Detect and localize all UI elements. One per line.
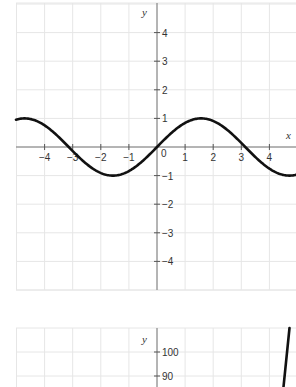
x-tick-label: 3 bbox=[239, 152, 245, 163]
steep-curve bbox=[284, 328, 290, 387]
y-tick-label: −1 bbox=[162, 171, 174, 182]
grid-lines-2 bbox=[16, 328, 296, 387]
y-tick-label: 2 bbox=[162, 85, 168, 96]
y-axis-label-2: y bbox=[141, 333, 147, 345]
x-tick-label: 4 bbox=[267, 152, 273, 163]
y-tick-label-2: 90 bbox=[162, 371, 174, 382]
x-tick-label: −2 bbox=[95, 152, 107, 163]
y-tick-label: −4 bbox=[162, 256, 174, 267]
x-tick-label: −4 bbox=[39, 152, 51, 163]
y-tick-label: −2 bbox=[162, 199, 174, 210]
y-tick-label-2: 100 bbox=[162, 347, 179, 358]
sine-chart: −4−3−2−112344321−1−2−3−4 x y 0 bbox=[0, 0, 296, 300]
origin-label: 0 bbox=[161, 148, 167, 159]
y-tick-label: 4 bbox=[162, 28, 168, 39]
x-tick-label: 2 bbox=[210, 152, 216, 163]
y-tick-label: −3 bbox=[162, 228, 174, 239]
axis-ticks-2: 10090 bbox=[154, 347, 179, 382]
y-axis-label: y bbox=[141, 6, 147, 18]
x-axis-label: x bbox=[285, 129, 291, 141]
x-tick-label: 1 bbox=[182, 152, 188, 163]
y-tick-label: 3 bbox=[162, 56, 168, 67]
y-tick-label: 1 bbox=[162, 113, 168, 124]
x-tick-label: −1 bbox=[123, 152, 135, 163]
